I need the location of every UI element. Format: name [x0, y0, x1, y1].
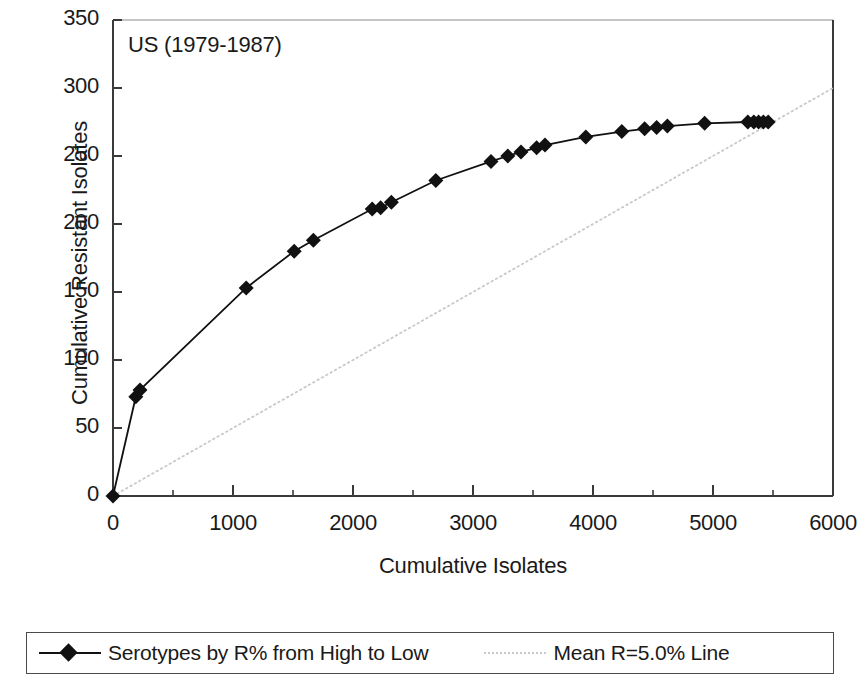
y-tick-label: 300 [39, 73, 99, 99]
y-tick-label: 350 [39, 5, 99, 31]
x-axis-title: Cumulative Isolates [113, 553, 833, 579]
data-point-marker [500, 149, 515, 164]
data-point-marker [514, 144, 529, 159]
x-tick-label: 6000 [793, 510, 863, 536]
data-point-marker [484, 154, 499, 169]
y-tick-label: 150 [39, 277, 99, 303]
legend-entry-1: Serotypes by R% from High to Low [39, 633, 428, 673]
legend-dotted-line-icon [484, 643, 546, 663]
data-point-marker [660, 119, 675, 134]
y-tick-label: 50 [39, 413, 99, 439]
data-point-marker [106, 489, 121, 504]
data-point-marker [428, 173, 443, 188]
x-tick-label: 4000 [553, 510, 633, 536]
legend-label: Mean R=5.0% Line [553, 641, 729, 665]
x-tick-label: 3000 [433, 510, 513, 536]
data-point-marker [697, 116, 712, 131]
legend-diamond-marker [59, 643, 77, 661]
data-point-marker [614, 124, 629, 139]
data-point-marker [637, 121, 652, 136]
x-tick-label: 0 [73, 510, 153, 536]
figure: US (1979-1987) Cumulative Isolates Cumul… [0, 0, 863, 681]
y-tick-label: 0 [39, 481, 99, 507]
chart-legend: Serotypes by R% from High to LowMean R=5… [26, 632, 834, 674]
x-tick-label: 1000 [193, 510, 273, 536]
x-tick-label: 5000 [673, 510, 753, 536]
data-point-marker [306, 233, 321, 248]
mean-reference-line [113, 88, 833, 496]
y-tick-label: 100 [39, 345, 99, 371]
y-tick-label: 200 [39, 209, 99, 235]
y-tick-label: 250 [39, 141, 99, 167]
data-point-marker [578, 129, 593, 144]
data-point-marker [287, 244, 302, 259]
legend-entry-2: Mean R=5.0% Line [484, 633, 729, 673]
panel-annotation: US (1979-1987) [128, 32, 282, 58]
legend-label: Serotypes by R% from High to Low [108, 641, 428, 665]
legend-diamond-line-icon [39, 643, 101, 663]
x-tick-label: 2000 [313, 510, 393, 536]
